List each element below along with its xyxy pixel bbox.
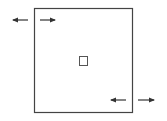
center-square [80,57,88,66]
diagram-canvas [0,0,167,121]
outer-rectangle [35,9,133,113]
